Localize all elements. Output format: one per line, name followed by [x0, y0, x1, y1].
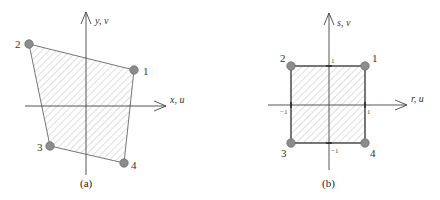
tick-label-left: −1: [280, 108, 288, 116]
node-2: [25, 40, 33, 48]
x-axis-label: x, u: [169, 94, 184, 105]
node-1-label: 1: [143, 65, 149, 77]
y-axis-label: y, v: [94, 15, 109, 26]
node-3: [287, 139, 295, 147]
node-4: [361, 139, 369, 147]
node-2-label: 2: [15, 38, 21, 50]
node-1: [130, 66, 138, 74]
node-2-label: 2: [280, 52, 286, 64]
node-1-label: 1: [372, 52, 378, 64]
node-1: [361, 62, 369, 70]
node-3-label: 3: [37, 141, 43, 153]
square-element: [291, 66, 365, 143]
quad-element: [29, 44, 134, 163]
node-2: [287, 62, 295, 70]
tick-label-right: 1: [367, 108, 371, 116]
panel-a: y, v x, u 1 2 3 4 (a): [15, 12, 184, 190]
node-3: [46, 142, 54, 150]
node-3-label: 3: [281, 147, 287, 159]
node-4: [120, 159, 128, 167]
node-4-label: 4: [370, 147, 376, 159]
tick-label-bottom: −1: [331, 147, 339, 155]
s-axis-label: s, v: [337, 17, 351, 28]
r-axis-label: r, u: [411, 93, 424, 104]
caption-a: (a): [80, 177, 93, 190]
caption-b: (b): [322, 177, 335, 190]
figure: y, v x, u 1 2 3 4 (a) s, v r, u 1 −1 −1 …: [0, 0, 440, 200]
tick-label-top: 1: [331, 57, 335, 65]
panel-b: s, v r, u 1 −1 −1 1 1 2 3 4 (b): [268, 13, 424, 190]
node-4-label: 4: [131, 159, 137, 171]
